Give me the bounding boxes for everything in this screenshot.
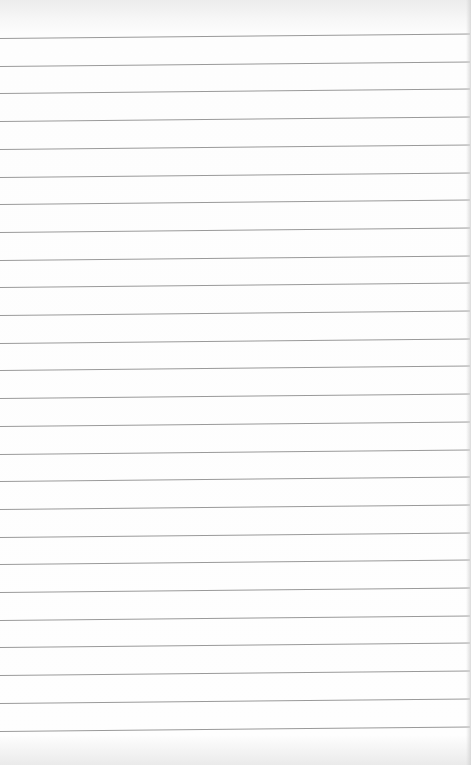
ruled-line [0,560,470,566]
ruled-line [0,227,470,233]
ruled-line [0,643,470,649]
ruled-line [0,310,470,316]
ruled-line [0,532,470,538]
ruled-line [0,421,470,427]
ruled-line [0,615,470,621]
ruled-line [0,200,470,206]
ruled-line [0,394,470,400]
ruled-line [0,587,470,593]
ruled-line [0,477,470,483]
ruled-line [0,338,470,344]
ruled-line [0,671,470,677]
ruled-line [0,172,470,178]
lined-paper-page [0,0,471,765]
ruled-line [0,144,470,150]
ruled-line [0,283,470,289]
ruled-line [0,726,470,732]
ruled-lines [0,0,471,765]
ruled-line [0,449,470,455]
ruled-line [0,255,470,261]
ruled-line [0,366,470,372]
ruled-line [0,61,470,67]
ruled-line [0,698,470,704]
ruled-line [0,89,470,95]
ruled-line [0,504,470,510]
ruled-line [0,117,470,123]
ruled-line [0,33,470,39]
